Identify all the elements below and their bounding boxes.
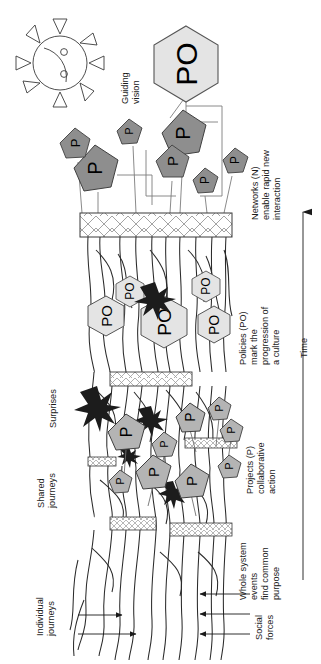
project-node-pentagon: P — [60, 128, 90, 158]
event-bar — [170, 523, 232, 536]
project-label: P — [213, 404, 225, 411]
project-node-pentagon: P — [152, 432, 177, 457]
project-label: P — [223, 462, 235, 469]
shared-journeys-line2: journeys — [47, 473, 57, 509]
policy-node-hexagon: PO — [88, 296, 124, 336]
project-label: P — [182, 412, 198, 421]
guiding-vision-line1: Guiding — [120, 72, 130, 104]
whole-system-line4: purpose — [271, 567, 281, 600]
policy-node-hexagon: PO — [154, 26, 218, 102]
label-projects: Projects (P) collaborative action — [245, 442, 277, 494]
project-label: P — [198, 176, 212, 184]
project-label: P — [84, 161, 106, 174]
policy-label: PO — [206, 315, 222, 335]
shared-journeys-line1: Shared — [36, 478, 46, 508]
label-networks: Networks (N) enable rapid new interactio… — [250, 150, 282, 220]
projects-line3: action — [267, 469, 277, 494]
social-forces-line1: Social — [254, 615, 264, 640]
projects-line2: collaborative — [256, 442, 266, 494]
project-label: P — [68, 139, 83, 148]
policy-label: PO — [98, 305, 115, 327]
policy-label: PO — [199, 277, 213, 294]
label-guiding-vision: Guiding vision — [120, 72, 141, 104]
event-bar — [88, 457, 116, 466]
individual-journeys-line2: journeys — [46, 601, 56, 637]
project-node-pentagon: P — [208, 397, 231, 420]
policy-label: PO — [123, 282, 137, 299]
networks-line2: enable rapid new — [261, 150, 271, 220]
project-node-pentagon: P — [117, 119, 142, 144]
whole-system-line2: events — [249, 573, 259, 600]
whole-system-line3: find common — [260, 547, 270, 600]
project-label: P — [183, 476, 200, 486]
label-social-forces: Social forces — [254, 615, 275, 640]
project-node-pentagon: P — [193, 168, 218, 193]
project-label: P — [172, 126, 194, 139]
project-node-pentagon: P — [176, 403, 205, 432]
project-label: P — [118, 427, 135, 438]
project-nodes-network: P P P P P P P — [60, 110, 248, 193]
project-label: P — [145, 467, 162, 477]
event-bar — [110, 372, 192, 386]
project-node-pentagon: P — [218, 455, 241, 478]
guiding-vision-line2: vision — [131, 81, 141, 105]
project-label: P — [114, 477, 126, 484]
event-bar — [110, 517, 156, 530]
label-surprises: Surprises — [48, 389, 58, 428]
concept-diagram: Guiding vision — [0, 0, 321, 664]
project-label: P — [225, 426, 237, 433]
project-label: P — [158, 440, 170, 447]
policy-label: PO — [170, 42, 203, 85]
surprises-text: Surprises — [48, 389, 58, 428]
networks-line3: interaction — [272, 178, 282, 220]
networks-line1: Networks (N) — [250, 166, 260, 220]
individual-journey-arrows — [78, 615, 136, 634]
figure-canvas: Guiding vision — [0, 0, 321, 664]
label-individual-journeys: Individual journeys — [35, 597, 56, 637]
event-bar-major — [80, 213, 232, 237]
policies-line1: Policies (PO) — [238, 311, 248, 365]
policies-line3: progression of — [260, 306, 270, 365]
policies-line4: a culture — [271, 330, 281, 365]
time-axis: Time — [299, 212, 309, 580]
project-node-pentagon: P — [136, 455, 171, 489]
project-node-pentagon: P — [109, 470, 132, 493]
project-label: P — [228, 156, 242, 164]
whole-system-line1: Whole system — [238, 542, 248, 600]
individual-journeys-line1: Individual — [35, 597, 45, 636]
policies-line2: mark the — [249, 329, 259, 365]
label-whole-system-events: Whole system events find common purpose — [238, 542, 281, 600]
project-node-pentagon: P — [223, 148, 248, 173]
surprise-burst — [74, 386, 121, 432]
guiding-vision-sun-icon — [16, 19, 104, 107]
projects-line1: Projects (P) — [245, 446, 255, 494]
social-forces-line2: forces — [265, 615, 275, 640]
time-axis-label: Time — [299, 338, 309, 358]
project-label: P — [164, 156, 181, 166]
project-label: P — [123, 127, 135, 134]
label-shared-journeys: Shared journeys — [36, 473, 57, 509]
label-policies: Policies (PO) mark the progression of a … — [238, 306, 281, 365]
